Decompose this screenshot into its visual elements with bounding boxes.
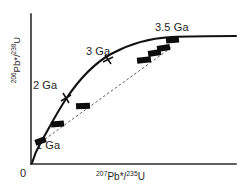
y-axis-label-container: 206Pb*/238U — [6, 0, 22, 120]
x-axis-label-sup-235: 235 — [126, 170, 137, 177]
y-axis-label-sup-238: 238 — [10, 44, 17, 55]
y-axis-label: 206Pb*/238U — [11, 37, 22, 83]
y-axis-label-sup-206: 206 — [10, 72, 17, 83]
chart-canvas — [0, 0, 241, 196]
y-axis-label-isotope-pb: Pb* — [11, 57, 22, 72]
x-axis-label: 207Pb*/235U — [0, 170, 241, 182]
concordia-diagram: 1 Ga 2 Ga 3 Ga 3.5 Ga 0 207Pb*/235U 206P… — [0, 0, 241, 196]
age-label-3-5ga: 3.5 Ga — [155, 22, 189, 33]
data-point — [137, 56, 152, 63]
data-point — [76, 103, 90, 110]
data-point — [166, 36, 179, 43]
discordia-chord — [41, 47, 172, 142]
data-point — [51, 120, 64, 127]
x-axis-label-isotope-pb: Pb* — [107, 171, 123, 182]
x-axis-label-sup-207: 207 — [96, 170, 107, 177]
x-axis-label-isotope-u: U — [138, 171, 145, 182]
y-axis-label-separator: / — [11, 54, 22, 57]
y-axis-label-isotope-u: U — [11, 37, 22, 44]
age-label-1ga: 1 Ga — [36, 140, 60, 151]
age-label-3ga: 3 Ga — [86, 46, 110, 57]
age-label-2ga: 2 Ga — [33, 80, 57, 91]
data-point — [157, 44, 171, 52]
